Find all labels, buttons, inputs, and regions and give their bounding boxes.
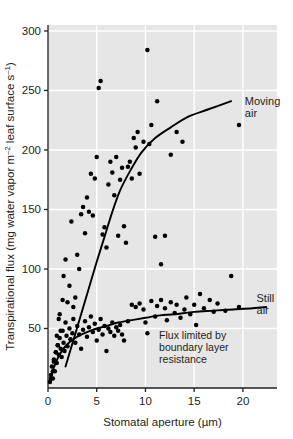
y-axis-tick-label: 150 [22,203,41,215]
data-point [118,177,123,182]
figure-container: 5010015020025030005101520 MovingairStill… [0,0,293,439]
data-point [85,335,90,340]
data-point [61,341,66,346]
chart-svg: 5010015020025030005101520 MovingairStill… [0,0,293,439]
data-point [52,357,57,362]
data-point [64,333,69,338]
data-point [130,176,135,181]
data-point [85,195,90,200]
data-point [65,300,70,305]
data-point [155,304,160,309]
data-point [73,295,78,300]
data-point [122,338,127,343]
data-point [124,241,129,246]
y-axis-title: Transpirational flux (mg water vapor m–2… [3,62,16,351]
data-point [141,307,146,312]
data-point [87,325,92,330]
data-point [67,326,72,331]
data-point [122,224,127,229]
y-axis-tick-label: 200 [22,144,41,156]
data-point [116,233,121,238]
data-point [98,79,103,84]
data-point [133,305,138,310]
y-axis-tick-label: 100 [22,263,41,275]
data-point [89,314,94,319]
data-point [153,235,158,240]
x-axis-tick-label: 15 [188,395,201,407]
y-axis-tick-label: 300 [22,25,41,37]
data-point [163,233,168,238]
data-point [91,213,96,218]
data-point [128,160,133,165]
data-point [96,86,101,91]
data-point [60,298,65,303]
y-axis-title-text: Transpirational flux (mg water vapor m–2… [3,62,16,351]
data-point [55,343,60,348]
data-point [149,123,154,128]
data-point [67,283,72,288]
data-point [202,306,207,311]
data-point [120,332,125,337]
data-point [237,123,242,128]
data-point [182,307,187,312]
data-point [60,329,65,334]
data-point [169,300,174,305]
data-point [215,301,220,306]
data-point [108,330,113,335]
data-point [57,336,62,341]
data-point [174,130,179,135]
data-point [81,327,86,332]
data-point [63,257,68,262]
data-point [116,329,121,334]
data-point [71,305,76,310]
x-axis-tick-label: 20 [236,395,249,407]
data-point [108,160,113,165]
data-point [110,170,115,175]
data-point [165,318,170,323]
data-point [141,139,146,144]
data-point [208,298,213,303]
data-point [98,317,103,322]
data-point [93,321,98,326]
x-axis-tick-label: 5 [94,395,100,407]
data-point [83,231,88,236]
data-point [130,302,135,307]
data-point [77,267,82,272]
y-axis-tick-label: 50 [28,322,41,334]
data-point [114,155,119,160]
data-point [87,210,92,215]
data-point [89,172,94,177]
data-point [137,172,142,177]
data-point [137,301,142,306]
data-point [194,323,199,328]
data-point [163,306,168,311]
data-point [69,219,74,224]
data-point [192,302,197,307]
data-point [132,136,137,141]
data-point [79,212,84,217]
data-point [149,299,154,304]
data-point [143,320,148,325]
data-point [112,193,117,198]
data-point [145,48,150,53]
data-point [81,205,86,210]
data-point [180,139,185,144]
data-point [135,130,140,135]
x-axis-tick-label: 0 [45,395,51,407]
data-point [75,252,80,257]
x-axis-tick-label: 10 [139,395,152,407]
data-point [71,317,76,322]
data-point [159,262,164,267]
y-axis-tick-label: 250 [22,84,41,96]
data-point [229,274,234,279]
data-point [120,166,125,171]
data-point [79,346,84,351]
data-point [104,349,109,354]
data-point [133,145,138,150]
x-axis-title: Stomatal aperture (µm) [103,416,222,428]
data-point [106,182,111,187]
data-point [159,298,164,303]
data-point [104,245,109,250]
data-point [94,338,99,343]
data-point [126,164,130,169]
